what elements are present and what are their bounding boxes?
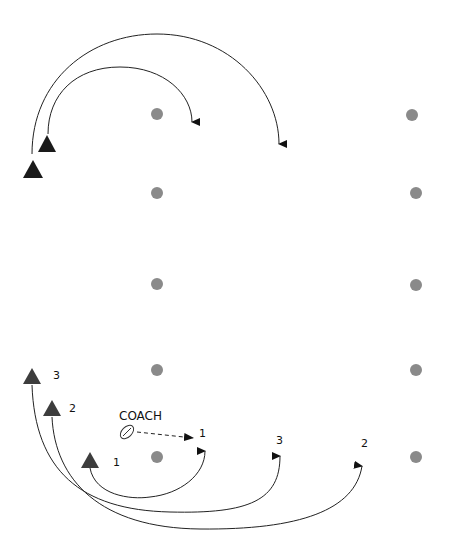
player-label-1: 1	[113, 456, 120, 469]
cone	[406, 109, 418, 121]
drill-diagram: 3 2 1 1 3 2 COACH	[0, 0, 449, 560]
player-label-3: 3	[53, 369, 60, 382]
target-label-1: 1	[199, 427, 206, 440]
cone	[151, 451, 163, 463]
cone	[151, 108, 163, 120]
pass-arrow-dashed	[137, 432, 193, 438]
player-label-2: 2	[69, 402, 76, 415]
cone	[151, 278, 163, 290]
target-label-2: 2	[361, 437, 368, 450]
route-arc-outer	[32, 34, 279, 154]
cones-right	[406, 109, 422, 463]
coach-label: COACH	[119, 409, 162, 423]
target-label-3: 3	[276, 434, 283, 447]
player-triangle-2	[43, 400, 61, 416]
cone	[410, 187, 422, 199]
player-triangle-top-b	[23, 160, 43, 178]
route-player-1	[90, 451, 205, 498]
cone	[151, 187, 163, 199]
player-triangle-1	[81, 452, 99, 468]
player-triangle-top-a	[38, 135, 56, 152]
player-triangle-3	[23, 368, 41, 384]
cone	[151, 364, 163, 376]
cone	[410, 451, 422, 463]
football-icon	[118, 423, 136, 441]
cone	[410, 279, 422, 291]
route-arc-inner	[48, 67, 192, 134]
cone	[410, 364, 422, 376]
route-player-2	[52, 417, 362, 529]
